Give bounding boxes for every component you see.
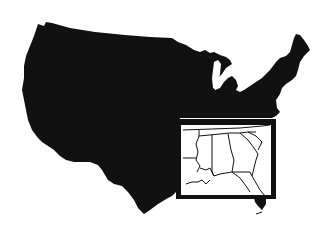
southeast-inset (176, 119, 276, 199)
florida-peninsula-tip (254, 198, 266, 210)
us-map-figure (0, 0, 334, 231)
florida-keys (256, 212, 262, 214)
